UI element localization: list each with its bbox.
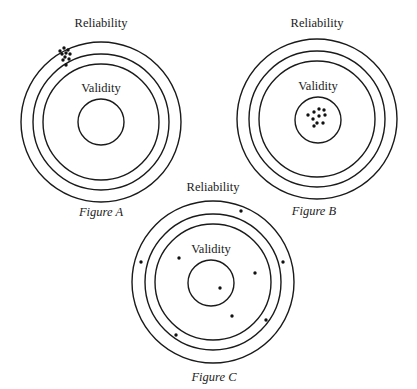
reliability-ring-middle bbox=[33, 54, 169, 190]
data-point-dot bbox=[62, 46, 65, 49]
validity-label: Validity bbox=[298, 79, 338, 93]
figure-c: Reliability Validity Figure C bbox=[132, 180, 294, 384]
validity-label: Validity bbox=[191, 242, 231, 256]
data-point-dot bbox=[317, 107, 320, 110]
data-point-dot bbox=[218, 286, 221, 289]
figure-a: Reliability Validity Figure A bbox=[21, 16, 181, 219]
data-point-dot bbox=[61, 58, 64, 61]
data-point-dot bbox=[66, 48, 69, 51]
data-point-dot bbox=[312, 110, 315, 113]
data-point-dot bbox=[68, 52, 71, 55]
validity-label: Validity bbox=[81, 81, 121, 95]
data-point-dot bbox=[177, 256, 180, 259]
reliability-label: Reliability bbox=[187, 180, 241, 194]
reliability-ring-outer bbox=[132, 201, 294, 363]
reliability-label: Reliability bbox=[291, 16, 345, 30]
data-point-dot bbox=[281, 260, 284, 263]
dot-scatter bbox=[139, 209, 284, 336]
data-point-dot bbox=[321, 121, 324, 124]
data-point-dot bbox=[322, 108, 325, 111]
data-point-dot bbox=[311, 117, 314, 120]
data-point-dot bbox=[253, 271, 256, 274]
validity-circle bbox=[188, 260, 234, 306]
data-point-dot bbox=[312, 124, 315, 127]
data-point-dot bbox=[264, 318, 267, 321]
figure-caption: Figure B bbox=[291, 204, 337, 218]
data-point-dot bbox=[67, 57, 70, 60]
data-point-dot bbox=[64, 63, 67, 66]
data-point-dot bbox=[139, 260, 142, 263]
data-point-dot bbox=[174, 333, 177, 336]
reliability-ring-outer bbox=[237, 39, 397, 199]
figure-caption: Figure A bbox=[78, 205, 123, 219]
reliability-ring-outer bbox=[21, 42, 181, 202]
data-point-dot bbox=[230, 314, 233, 317]
data-point-dot bbox=[306, 113, 309, 116]
data-point-dot bbox=[239, 209, 242, 212]
data-point-dot bbox=[323, 113, 326, 116]
reliability-label: Reliability bbox=[75, 16, 129, 30]
reliability-ring-middle bbox=[145, 214, 281, 350]
dot-cluster bbox=[306, 107, 326, 127]
data-point-dot bbox=[63, 55, 66, 58]
figure-caption: Figure C bbox=[190, 370, 237, 384]
data-point-dot bbox=[315, 121, 318, 124]
validity-circle bbox=[295, 97, 341, 143]
data-point-dot bbox=[58, 49, 61, 52]
reliability-validity-diagram: Reliability Validity Figure A Reliabilit… bbox=[0, 0, 417, 389]
reliability-ring-middle bbox=[249, 51, 385, 187]
data-point-dot bbox=[64, 51, 67, 54]
data-point-dot bbox=[317, 114, 320, 117]
data-point-dot bbox=[60, 52, 63, 55]
dot-cluster bbox=[58, 46, 71, 66]
validity-circle bbox=[78, 99, 124, 145]
figure-b: Reliability Validity Figure B bbox=[237, 16, 397, 218]
